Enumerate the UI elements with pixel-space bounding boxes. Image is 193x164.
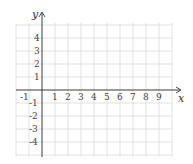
svg-text:-1: -1 [29, 98, 38, 108]
svg-text:-2: -2 [29, 111, 38, 121]
x-axis-label: x [178, 92, 185, 105]
svg-text:2: 2 [34, 59, 40, 69]
svg-text:3: 3 [34, 46, 40, 56]
svg-text:-3: -3 [29, 124, 38, 134]
svg-text:-1: -1 [20, 92, 29, 102]
svg-text:1: 1 [52, 92, 58, 102]
svg-text:6: 6 [117, 92, 123, 102]
svg-text:1: 1 [34, 72, 40, 82]
svg-text:2: 2 [65, 92, 71, 102]
svg-text:8: 8 [143, 92, 149, 102]
svg-text:-4: -4 [29, 137, 38, 147]
svg-text:7: 7 [130, 92, 136, 102]
svg-text:9: 9 [156, 92, 162, 102]
svg-text:4: 4 [91, 92, 97, 102]
svg-text:5: 5 [104, 92, 110, 102]
svg-text:3: 3 [78, 92, 84, 102]
y-axis-label: y [31, 8, 39, 21]
coordinate-plane: y x -1 1 2 3 4 5 6 7 8 9 4 3 2 1 -1 -2 -… [0, 0, 193, 164]
x-tick-labels: -1 1 2 3 4 5 6 7 8 9 [20, 92, 162, 102]
svg-text:4: 4 [34, 33, 40, 43]
